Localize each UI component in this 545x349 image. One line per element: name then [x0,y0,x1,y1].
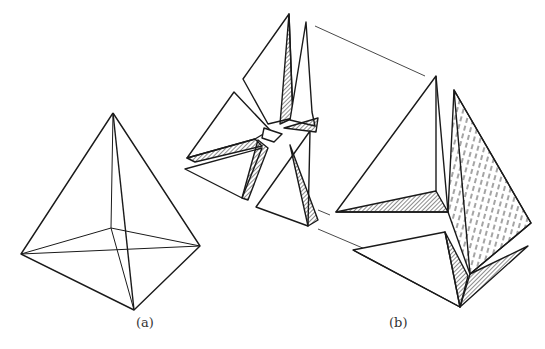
exploded-pieces [185,14,318,226]
enlarged-piece [336,76,531,307]
label-b: (b) [389,315,407,330]
figure: (a) (b) [0,0,545,349]
label-a: (a) [136,315,154,330]
tetrahedra-drawing [0,0,545,349]
tetrahedron-a [21,113,200,310]
